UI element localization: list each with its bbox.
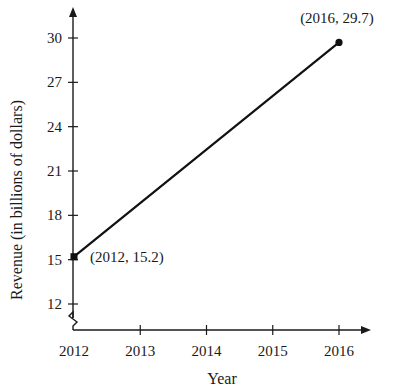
- x-tick-label: 2016: [324, 343, 355, 359]
- data-series: (2012, 15.2) (2016, 29.7): [71, 10, 374, 266]
- x-tick-label: 2015: [258, 343, 288, 359]
- data-point-2012: [71, 253, 78, 260]
- point-label-2012: (2012, 15.2): [90, 249, 164, 266]
- x-tick-label: 2012: [59, 343, 89, 359]
- y-tick-label: 15: [47, 252, 62, 268]
- data-point-2016: [335, 39, 342, 46]
- y-tick-label: 18: [47, 207, 62, 223]
- y-tick-label: 27: [47, 74, 63, 90]
- line-chart: 12151821242730 20122013201420152016 (201…: [0, 0, 394, 392]
- x-axis-title: Year: [207, 370, 237, 387]
- y-tick-label: 30: [47, 30, 62, 46]
- axis-break-icon: [69, 312, 77, 330]
- y-axis-title: Revenue (in billions of dollars): [8, 100, 26, 300]
- x-tick-label: 2013: [125, 343, 155, 359]
- point-label-2016: (2016, 29.7): [300, 10, 374, 27]
- y-tick-label: 24: [47, 119, 63, 135]
- x-tick-label: 2014: [192, 343, 223, 359]
- revenue-line: [74, 42, 339, 256]
- y-tick-label: 21: [47, 163, 62, 179]
- y-tick-label: 12: [47, 296, 62, 312]
